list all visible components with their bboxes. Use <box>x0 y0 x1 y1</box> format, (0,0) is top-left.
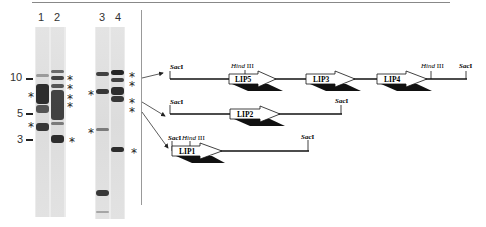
svg-text:LIP2: LIP2 <box>237 110 254 119</box>
svg-text:SacI: SacI <box>301 133 315 141</box>
svg-text:SacI: SacI <box>170 98 184 106</box>
svg-text:Hind III: Hind III <box>230 62 254 70</box>
svg-text:SacI: SacI <box>459 62 473 70</box>
svg-text:SacI: SacI <box>168 134 182 142</box>
restriction-maps: SacI Hind III LIP5 LIP3 LIP4 Hind III Sa… <box>0 0 486 227</box>
svg-text:Hind III: Hind III <box>420 62 444 70</box>
svg-text:Hind III: Hind III <box>181 134 205 142</box>
svg-text:LIP4: LIP4 <box>384 75 401 84</box>
svg-text:LIP1: LIP1 <box>179 147 196 156</box>
map-bottom: SacI Hind III LIP1 SacI <box>168 133 315 163</box>
svg-text:LIP5: LIP5 <box>235 75 252 84</box>
svg-text:SacI: SacI <box>335 97 349 105</box>
svg-text:LIP3: LIP3 <box>313 75 330 84</box>
map-middle: SacI LIP2 SacI <box>170 97 349 126</box>
svg-text:SacI: SacI <box>170 63 184 71</box>
map-top: SacI Hind III LIP5 LIP3 LIP4 Hind III Sa… <box>170 62 473 91</box>
